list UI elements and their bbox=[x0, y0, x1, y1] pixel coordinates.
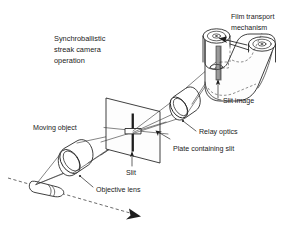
moving-object bbox=[29, 181, 63, 197]
bullet-body bbox=[29, 181, 63, 197]
label-relay-optics: Relay optics bbox=[199, 128, 238, 136]
relay-optics bbox=[167, 87, 201, 121]
leader-objective-lens bbox=[80, 176, 93, 187]
label-objective-lens: Objective lens bbox=[96, 186, 141, 194]
label-slit-image: Slit image bbox=[223, 97, 254, 105]
title-line-2: streak camera bbox=[54, 45, 102, 54]
label-slit: Slit bbox=[126, 169, 136, 177]
leader-relay-optics bbox=[183, 121, 196, 131]
label-film-transport-line-1: Film transport bbox=[231, 13, 274, 21]
synchroballistic-streak-camera-diagram: Synchroballistic streak camera operation… bbox=[0, 0, 297, 228]
label-plate-containing-slit: Plate containing slit bbox=[173, 145, 234, 153]
trajectory-group bbox=[8, 178, 141, 220]
title-line-1: Synchroballistic bbox=[54, 34, 106, 43]
film-transport-mechanism bbox=[203, 29, 276, 101]
slit-image-strip bbox=[216, 46, 220, 80]
objective-lens bbox=[56, 140, 93, 178]
left-spool-axle bbox=[215, 35, 218, 37]
leader-relay-optics-dot bbox=[182, 120, 184, 122]
diagram-canvas: Synchroballistic streak camera operation… bbox=[0, 0, 297, 228]
label-moving-object: Moving object bbox=[33, 124, 77, 132]
leader-objective-lens-dot bbox=[79, 175, 81, 177]
trajectory-arrowhead bbox=[126, 209, 141, 220]
trajectory-dashed-line bbox=[8, 178, 137, 215]
label-film-transport-line-2: mechanism bbox=[231, 24, 267, 32]
right-spool-axle bbox=[261, 43, 264, 45]
title-line-3: operation bbox=[54, 56, 85, 65]
